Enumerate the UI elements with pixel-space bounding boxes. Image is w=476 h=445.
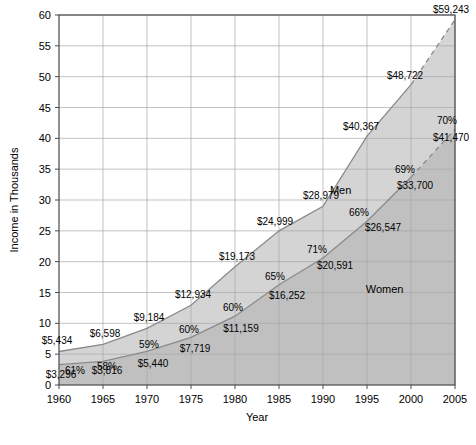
men-data-label: $9,184 [134,312,165,323]
y-axis-tick-label: 25 [39,225,51,237]
women-data-label: $26,547 [365,222,402,233]
x-axis-tick-label: 1990 [311,393,335,405]
y-axis-tick-label: 40 [39,132,51,144]
income-ratio-label: 65% [265,271,285,282]
y-axis-tick-label: 15 [39,287,51,299]
men-data-label: $6,598 [90,328,121,339]
y-axis-tick-label: 20 [39,256,51,268]
x-axis-tick-label: 2005 [443,393,467,405]
series-label-men: Men [330,184,351,196]
women-data-label: $11,159 [223,323,259,334]
income-ratio-label: 69% [395,164,415,175]
y-axis-tick-label: 50 [39,71,51,83]
income-ratio-label: 71% [307,244,327,255]
x-axis-tick-label: 1995 [355,393,379,405]
x-axis-tick-label: 1970 [135,393,159,405]
men-data-label: $40,367 [343,121,380,132]
income-ratio-label: 60% [223,302,243,313]
women-data-label: $41,470 [433,132,470,143]
x-axis-title: Year [246,411,269,423]
men-data-label: $48,722 [387,70,424,81]
women-data-label: $33,700 [397,180,434,191]
income-ratio-label: 60% [179,324,199,335]
income-ratio-label: 59% [139,339,159,350]
income-ratio-label: 70% [437,115,457,126]
x-axis-tick-label: 1985 [267,393,291,405]
y-axis-tick-label: 10 [39,317,51,329]
men-data-label: $59,243 [433,4,470,15]
women-data-label: $7,719 [180,343,211,354]
x-axis-tick-label: 2000 [399,393,423,405]
x-axis-tick-label: 1965 [91,393,115,405]
income-ratio-label: 58% [97,361,117,372]
men-data-label: $19,173 [219,251,256,262]
y-axis-tick-label: 35 [39,163,51,175]
y-axis-tick-label: 5 [45,348,51,360]
x-axis-tick-label: 1980 [223,393,247,405]
women-data-label: $5,440 [138,358,169,369]
income-by-gender-area-chart: 0510152025303540455055601960196519701975… [0,0,476,445]
y-axis-tick-label: 30 [39,194,51,206]
women-data-label: $20,591 [317,260,354,271]
series-label-women: Women [366,283,404,295]
men-data-label: $12,934 [175,289,212,300]
men-data-label: $5,434 [42,335,73,346]
x-axis-tick-label: 1960 [47,393,71,405]
y-axis-tick-label: 45 [39,102,51,114]
y-axis-tick-label: 60 [39,9,51,21]
chart-container: 0510152025303540455055601960196519701975… [0,0,476,445]
income-ratio-label: 61% [65,365,85,376]
y-axis-tick-label: 55 [39,40,51,52]
y-axis-tick-label: 0 [45,379,51,391]
men-data-label: $24,999 [257,216,294,227]
women-data-label: $16,252 [269,290,306,301]
income-ratio-label: 66% [349,207,369,218]
x-axis-tick-label: 1975 [179,393,203,405]
y-axis-title: Income in Thousands [8,147,20,252]
